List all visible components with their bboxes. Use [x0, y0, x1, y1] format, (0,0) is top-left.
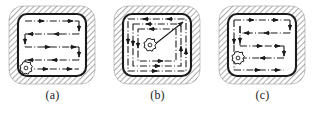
panel-c: (c) — [210, 0, 315, 115]
panel-b-caption: (b) — [105, 88, 210, 103]
panel-a: (a) — [0, 0, 105, 115]
panel-a-caption: (a) — [0, 88, 105, 103]
panel-b: (b) — [105, 0, 210, 115]
pocket-boundary-c — [228, 14, 296, 76]
panel-c-caption: (c) — [210, 88, 315, 103]
figure-pocket-milling-toolpaths: (a) — [0, 0, 316, 115]
